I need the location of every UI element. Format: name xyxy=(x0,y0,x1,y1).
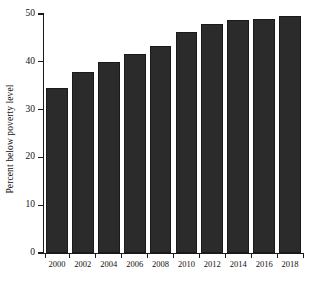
bar-2006 xyxy=(124,54,146,253)
x-axis-tick xyxy=(173,253,174,258)
bar-2000 xyxy=(46,88,68,253)
x-axis-tick xyxy=(251,253,252,258)
x-axis-tick xyxy=(225,253,226,258)
bar-2010 xyxy=(176,32,198,253)
bar-2018 xyxy=(279,16,301,253)
y-axis-tick-label: 30 xyxy=(26,105,36,115)
x-axis-tick-label: 2002 xyxy=(74,260,91,269)
x-axis-tick-label: 2016 xyxy=(256,260,273,269)
bar-2016 xyxy=(253,19,275,253)
y-axis-title: Percent below poverty level xyxy=(5,59,15,219)
bar-2012 xyxy=(201,24,223,253)
x-axis-tick-label: 2018 xyxy=(282,260,299,269)
x-axis-tick xyxy=(147,253,148,258)
bar-2002 xyxy=(72,72,94,253)
y-axis-tick-label: 40 xyxy=(26,57,36,67)
x-axis-tick-label: 2014 xyxy=(230,260,247,269)
x-axis-tick xyxy=(121,253,122,258)
x-axis-tick xyxy=(95,253,96,258)
y-axis-tick-label: 20 xyxy=(26,153,36,163)
bar-2014 xyxy=(227,20,249,253)
x-axis-tick-label: 2008 xyxy=(152,260,169,269)
x-axis-tick xyxy=(45,253,46,258)
y-axis-tick-label: 0 xyxy=(30,248,35,258)
x-axis-tick-label: 2004 xyxy=(100,260,117,269)
x-axis-tick-label: 2012 xyxy=(204,260,221,269)
y-axis-tick-label: 10 xyxy=(26,200,36,210)
x-axis-tick xyxy=(303,253,304,258)
y-axis-tick-label: 50 xyxy=(26,9,36,19)
x-axis-tick xyxy=(69,253,70,258)
y-axis-title-container: Percent below poverty level xyxy=(0,0,26,284)
bar-2008 xyxy=(150,46,172,253)
x-axis-tick-label: 2000 xyxy=(48,260,65,269)
x-axis-tick xyxy=(199,253,200,258)
x-axis-tick-label: 2006 xyxy=(126,260,143,269)
bar-2004 xyxy=(98,62,120,253)
bar-chart-figure: Percent below poverty level 01020304050 … xyxy=(0,0,320,284)
x-axis-tick-label: 2010 xyxy=(178,260,195,269)
bars-container xyxy=(44,0,303,253)
x-axis-tick xyxy=(277,253,278,258)
